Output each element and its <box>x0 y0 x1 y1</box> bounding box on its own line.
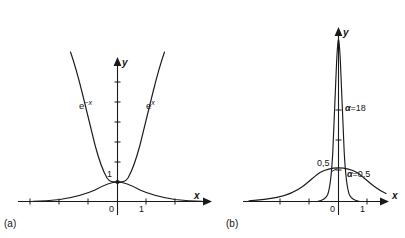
panel-b-y-tick-label-05: 0,5 <box>317 159 330 168</box>
panel-a-curve-exp-neg-x <box>71 52 203 201</box>
panel-b-alpha-18-value: 18 <box>356 103 366 113</box>
panel-a-curve-label-exp-neg-x: e−x <box>79 99 92 111</box>
panel-a-y-axis-arrow <box>114 57 122 66</box>
panel-a-tag: (a) <box>4 219 16 229</box>
figure-container: e−x ex y x 1 0 1 (a) y x α=18 α=0,5 0,5 … <box>0 0 405 238</box>
panel-a-x-tick-label-0: 0 <box>109 205 114 214</box>
panel-a-plot <box>18 52 212 215</box>
panel-b-y-axis-arrow <box>335 27 343 36</box>
panel-b-x-tick-label-0: 0 <box>330 205 335 214</box>
panel-b-tag: (b) <box>226 219 238 229</box>
panel-b-curve-label-alpha-05: α=0,5 <box>347 170 370 179</box>
panel-a-curve-label-exp-pos-x-exponent: x <box>151 99 155 106</box>
panel-a-x-tick-label-1: 1 <box>139 205 144 214</box>
panel-a-y-tick-label-1: 1 <box>107 170 112 179</box>
panel-b-x-tick-label-1: 1 <box>360 205 365 214</box>
panel-a-x-axis-arrow <box>203 198 212 206</box>
panel-b-alpha-05-value: 0,5 <box>358 169 371 179</box>
panel-a-intersection-point <box>115 180 119 184</box>
panel-a-curve-label-exp-pos-x: ex <box>146 99 155 111</box>
panel-a-curve-exp-pos-x <box>33 52 165 201</box>
panel-b-x-axis-arrow <box>380 198 389 206</box>
panel-b-x-axis-label: x <box>392 191 398 201</box>
panel-b-y-axis-label: y <box>343 28 349 38</box>
panel-a-curve-label-exp-neg-x-exponent: −x <box>84 99 92 106</box>
panel-b-plot <box>243 27 389 215</box>
panel-a-x-axis-label: x <box>194 191 200 201</box>
panel-a-y-axis-label: y <box>122 58 128 68</box>
panel-b-curve-label-alpha-18: α=18 <box>345 104 366 113</box>
